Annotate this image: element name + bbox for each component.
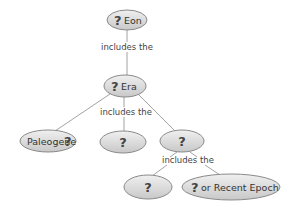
question-icon: ?: [144, 180, 152, 195]
link-label-era-children: includes the: [100, 107, 152, 117]
question-icon: ?: [114, 13, 122, 28]
node-eon: ? Eon: [107, 10, 147, 30]
question-icon: ?: [64, 134, 72, 149]
node-paleogene: Paleogene ?: [20, 130, 76, 152]
svg-text:Era: Era: [121, 81, 137, 92]
node-recent-epoch: ? or Recent Epoch: [182, 174, 280, 200]
node-era-child-mid: ?: [100, 131, 146, 153]
concept-map: includes the includes the includes the ?…: [0, 0, 292, 213]
link-label-eon-era: includes the: [101, 42, 153, 52]
node-period-child-left: ?: [124, 175, 172, 199]
svg-text:or Recent Epoch: or Recent Epoch: [201, 182, 279, 193]
node-era: ? Era: [104, 75, 146, 97]
question-icon: ?: [111, 79, 119, 94]
svg-text:Eon: Eon: [124, 15, 142, 26]
link-label-period-children: includes the: [162, 155, 214, 165]
edge-label-bottomleft: [152, 165, 167, 176]
question-icon: ?: [178, 134, 186, 149]
question-icon: ?: [119, 135, 127, 150]
node-era-child-right: ?: [160, 130, 204, 152]
edge-label-recent: [205, 165, 220, 175]
question-icon: ?: [191, 180, 199, 195]
